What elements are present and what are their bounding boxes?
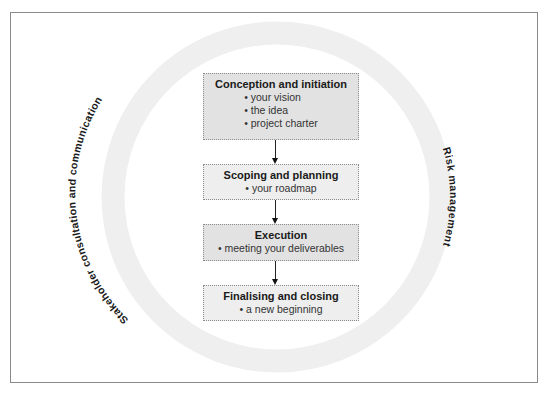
stage-title: Finalising and closing [204, 289, 358, 303]
flow-arrow-line [275, 261, 276, 280]
stage-box-scoping: Scoping and planning • your roadmap [203, 164, 359, 200]
stage-box-finalising: Finalising and closing • a new beginning [203, 285, 359, 321]
stage-title: Scoping and planning [204, 168, 358, 182]
stage-box-conception: Conception and initiation • your vision … [203, 73, 359, 140]
stage-item: • meeting your deliverables [204, 242, 358, 255]
flow-arrow-line [275, 140, 276, 159]
stage-items: • your vision • the idea • project chart… [244, 91, 318, 130]
stage-item: • your vision [244, 91, 318, 104]
stage-item: • project charter [244, 117, 318, 130]
stage-item: • a new beginning [204, 303, 358, 316]
stage-item: • the idea [244, 104, 318, 117]
stage-title: Conception and initiation [204, 77, 358, 91]
stage-box-execution: Execution • meeting your deliverables [203, 224, 359, 261]
stage-item: • your roadmap [204, 182, 358, 195]
stage-title: Execution [204, 228, 358, 242]
flow-arrow-line [275, 200, 276, 219]
